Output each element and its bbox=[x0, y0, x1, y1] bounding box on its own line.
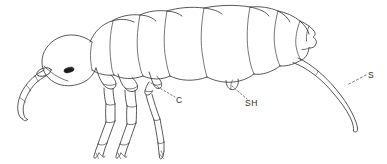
label-furca: S bbox=[368, 71, 374, 80]
leg2-tibia bbox=[127, 106, 137, 124]
leg1-claw-detail bbox=[96, 153, 103, 159]
antenna-upper-edge bbox=[18, 70, 44, 119]
abdomen-seg2-ventral bbox=[207, 74, 254, 82]
leg3-trochanter-seam bbox=[145, 91, 153, 92]
leg-pair-1-group bbox=[94, 68, 116, 159]
furca-joint bbox=[316, 71, 318, 75]
antenna-group bbox=[18, 70, 46, 121]
leg2-coxa-seam bbox=[125, 86, 138, 89]
leg1-tarsus bbox=[98, 121, 115, 144]
leg2-tibia-joint bbox=[127, 123, 136, 125]
metathorax-outline bbox=[140, 11, 182, 16]
springtail-line-art bbox=[0, 0, 387, 164]
leg3-femur bbox=[146, 95, 160, 121]
leg2-femur bbox=[125, 90, 137, 106]
antenna-lower-edge bbox=[23, 76, 46, 120]
leg1-femur-joint bbox=[106, 104, 115, 105]
leg2-claw-detail bbox=[118, 153, 125, 159]
ventral-tube-fold bbox=[231, 80, 233, 90]
label-coxa: C bbox=[176, 96, 183, 105]
antenna-joint-1 bbox=[35, 76, 38, 82]
thorax-group bbox=[90, 11, 182, 79]
abdomen-seg1-dorsal bbox=[167, 7, 222, 14]
leg1-femur bbox=[104, 88, 115, 104]
leg2-claw bbox=[116, 143, 129, 158]
head-thorax-seam bbox=[91, 42, 93, 70]
leg3-coxa bbox=[149, 72, 162, 89]
head-group bbox=[36, 35, 96, 86]
abdomen-seg4-seam bbox=[296, 21, 301, 60]
leg3-tibia-joint bbox=[158, 142, 164, 144]
leader-line-s bbox=[347, 75, 366, 85]
abdomen-seg4-dorsal bbox=[278, 11, 309, 34]
abdomen-terminal-seam2 bbox=[302, 48, 309, 50]
springtail-diagram: C SH S bbox=[0, 0, 387, 164]
furca-tip bbox=[354, 128, 358, 132]
antenna-joint-2 bbox=[27, 86, 31, 92]
abdomen-seg3-ventral bbox=[254, 66, 280, 74]
abdomen-seg3-seam bbox=[274, 11, 280, 66]
abdomen-seg4-ventral bbox=[280, 60, 301, 66]
leg3-trochanter bbox=[145, 82, 153, 95]
furca-base-upper bbox=[298, 58, 335, 88]
leg1-coxa-seam bbox=[103, 84, 116, 85]
leg-pair-2-group bbox=[116, 74, 138, 159]
furca-shaft-upper bbox=[335, 88, 358, 128]
leg1-tibia bbox=[106, 104, 115, 122]
mesothorax-posterior-seam bbox=[137, 15, 143, 76]
leg1-tibia-joint bbox=[106, 121, 115, 123]
leg3-femur-joint bbox=[154, 119, 160, 121]
leg1-tarsus-joint bbox=[98, 143, 107, 145]
mesothorax-outline bbox=[112, 15, 156, 21]
leg1-coxa bbox=[96, 68, 116, 89]
abdomen-seg1-ventral bbox=[170, 76, 207, 80]
leg2-femur-joint bbox=[127, 106, 137, 107]
head-mouth-seam bbox=[44, 66, 68, 81]
ventral-tube-group bbox=[226, 79, 238, 90]
furca-group bbox=[293, 58, 358, 132]
prothorax-outline bbox=[90, 19, 134, 42]
prothorax-posterior-seam bbox=[110, 22, 114, 76]
leg1-claw bbox=[94, 143, 107, 158]
abdomen-seg3-dorsal bbox=[250, 7, 290, 22]
label-ventral-tube: SH bbox=[245, 99, 258, 108]
metathorax-ventral bbox=[143, 76, 170, 79]
head-outline bbox=[42, 35, 96, 86]
abdomen-seg2-seam bbox=[247, 7, 254, 74]
leg2-tarsus bbox=[120, 123, 136, 144]
abdomen-group bbox=[167, 5, 316, 82]
leg3-tibia bbox=[154, 119, 164, 143]
leg3-claw-detail bbox=[160, 151, 164, 159]
abdomen-seg1-seam bbox=[201, 8, 207, 77]
leg2-tarsus-joint bbox=[120, 143, 129, 145]
metathorax-posterior-seam bbox=[164, 11, 170, 76]
abdomen-terminal-dorsal bbox=[300, 21, 316, 48]
eye-patch bbox=[63, 66, 74, 74]
leader-line-c bbox=[151, 83, 175, 97]
